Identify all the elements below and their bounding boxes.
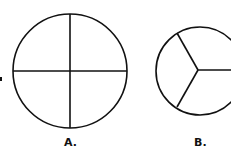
figure-b-label: B. [194, 136, 207, 149]
figure-b: B. [156, 27, 231, 149]
circle-b-spoke-upper-left [177, 33, 198, 70]
circle-b [156, 27, 231, 115]
fraction-circles-diagram: A. B. [0, 0, 231, 151]
edge-mark [0, 77, 2, 81]
figure-a-label: A. [64, 136, 77, 149]
figure-a: A. [13, 14, 127, 149]
circle-b-spoke-lower-left [177, 70, 198, 107]
